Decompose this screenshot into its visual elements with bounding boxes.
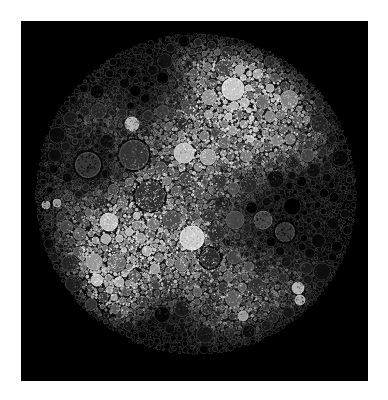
figure-canvas <box>0 0 388 400</box>
circle-pack-visualization <box>21 21 368 381</box>
plot-area <box>21 21 368 381</box>
